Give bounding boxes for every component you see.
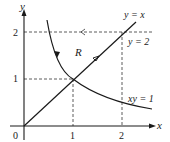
direction-arrow-icon [54,51,60,58]
x-axis-label: x [156,119,162,131]
y-tick-2: 2 [13,27,18,38]
region-label: R [74,46,82,58]
label-y-eq-x: y = x [123,9,145,20]
y-axis-label: y [19,0,25,12]
x-tick-1: 1 [70,130,75,141]
x-tick-2: 2 [119,130,124,141]
label-y-eq-2: y = 2 [127,36,149,47]
y-tick-1: 1 [13,73,18,84]
x-axis-arrow-icon [149,124,156,129]
axes [10,9,156,140]
line-y-eq-x [24,22,136,126]
region-diagram: y x 0 1 2 1 2 y = x y = 2 xy = 1 R [0,0,170,142]
origin-label: 0 [13,130,18,141]
label-xy-eq-1: xy = 1 [127,93,154,104]
